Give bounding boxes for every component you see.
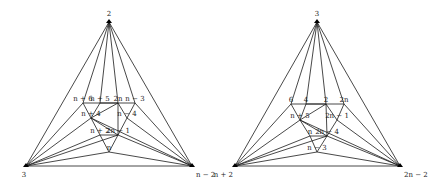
graph-edge xyxy=(127,118,192,166)
graph-edge xyxy=(344,104,400,166)
graph-edge xyxy=(235,22,317,166)
vertex-label: n + 2 xyxy=(214,171,233,179)
vertex-label: n − 3 xyxy=(307,144,326,152)
graph-edge xyxy=(26,22,109,166)
graph-edge xyxy=(91,118,192,166)
vertex-label: n + 5 xyxy=(290,112,309,120)
vertex-label: n − 2 xyxy=(196,171,215,179)
graph-edge xyxy=(235,152,317,166)
vertex-label: 2n − 4 xyxy=(315,128,339,136)
graph-edge xyxy=(26,135,100,166)
vertex-label: n + 4 xyxy=(81,110,101,118)
graph-edge xyxy=(317,22,344,104)
vertex-label: 2n − 2 xyxy=(404,171,428,179)
graph-edge xyxy=(337,120,400,166)
graph-edge xyxy=(317,152,400,166)
graph-edge xyxy=(100,22,109,103)
vertex-label: n + 5 xyxy=(90,95,109,103)
vertex-label: n xyxy=(107,144,112,152)
vertex-label: n − 3 xyxy=(125,95,144,103)
graph-edge xyxy=(26,118,91,166)
vertex-label: 3 xyxy=(315,10,319,18)
vertex-label: 4 xyxy=(304,96,309,104)
graph-edge xyxy=(109,152,192,166)
graph-edge xyxy=(135,103,192,166)
graph-edge xyxy=(109,22,135,103)
vertex-label: n − 4 xyxy=(117,110,137,118)
graph-edge xyxy=(300,120,400,166)
graph-edge xyxy=(306,22,317,104)
graph-edge xyxy=(327,136,400,166)
graph-right: 3n + 22n − 26422nn + 52n − 1n2n − 4n − 3 xyxy=(214,10,428,179)
graph-edge xyxy=(26,152,109,166)
vertex-label: 2n − 1 xyxy=(106,127,130,135)
graph-edge xyxy=(235,120,300,166)
graph-edge xyxy=(291,22,317,104)
vertex-label: 2n xyxy=(114,95,123,103)
graph-edge xyxy=(317,22,400,166)
vertex-label: 2n xyxy=(340,96,349,104)
vertex-label: 3 xyxy=(22,171,26,179)
graph-edge xyxy=(109,22,192,166)
vertex-label: n xyxy=(308,128,313,136)
graph-edge xyxy=(118,135,192,166)
graph-edge xyxy=(109,22,118,103)
vertex-label: 2 xyxy=(107,10,111,18)
vertex-label: 2 xyxy=(324,96,328,104)
graph-edge xyxy=(235,136,310,166)
vertex-label: 2n − 1 xyxy=(325,112,349,120)
graph-edge xyxy=(317,22,326,104)
outer-vertex-marker-icon xyxy=(106,19,112,23)
outer-vertex-marker-icon xyxy=(314,19,320,23)
graph-left: 23n − 2n + 6n + 52nn − 3n + 4n − 4n + 22… xyxy=(22,10,216,179)
diagram-canvas: 23n − 2n + 6n + 52nn − 3n + 4n − 4n + 22… xyxy=(0,0,440,182)
graph-edge xyxy=(83,22,109,103)
vertex-label: 6 xyxy=(289,96,294,104)
